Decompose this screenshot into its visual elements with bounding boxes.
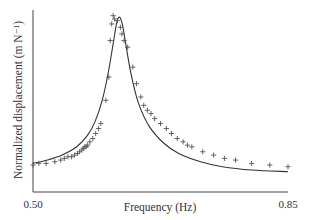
plus-marker-icon [134,81,139,86]
plus-marker-icon [141,103,146,108]
measured-points [30,13,290,169]
resonance-chart: 0.50 0.85 Frequency (Hz) Normalized disp… [0,0,319,220]
plus-marker-icon [138,94,143,99]
plus-marker-icon [93,131,98,136]
plot-area [30,10,290,192]
plus-marker-icon [109,21,114,26]
plus-marker-icon [103,98,108,103]
plus-marker-icon [52,159,57,164]
plus-marker-icon [148,111,153,116]
plus-marker-icon [44,161,49,166]
model-curve [33,17,288,172]
plus-marker-icon [130,65,135,70]
y-axis-label: Normalized displacement (m N⁻¹) [12,21,25,179]
plus-marker-icon [233,157,238,162]
plus-marker-icon [145,108,150,113]
plus-marker-icon [164,126,169,131]
plus-marker-icon [175,136,180,141]
x-tick-max: 0.85 [278,198,298,210]
x-tick-min: 0.50 [23,198,43,210]
plus-marker-icon [249,161,254,166]
plus-marker-icon [180,139,185,144]
plus-marker-icon [98,121,103,126]
plus-marker-icon [169,131,174,136]
plus-marker-icon [285,164,290,169]
plus-marker-icon [200,149,205,154]
plus-marker-icon [90,136,95,141]
x-axis-label: Frequency (Hz) [124,201,197,214]
plus-marker-icon [152,116,157,121]
plus-marker-icon [267,162,272,167]
plus-marker-icon [108,38,113,43]
plus-marker-icon [96,126,101,131]
plus-marker-icon [222,156,227,161]
plus-marker-icon [211,153,216,158]
plus-marker-icon [158,121,163,126]
